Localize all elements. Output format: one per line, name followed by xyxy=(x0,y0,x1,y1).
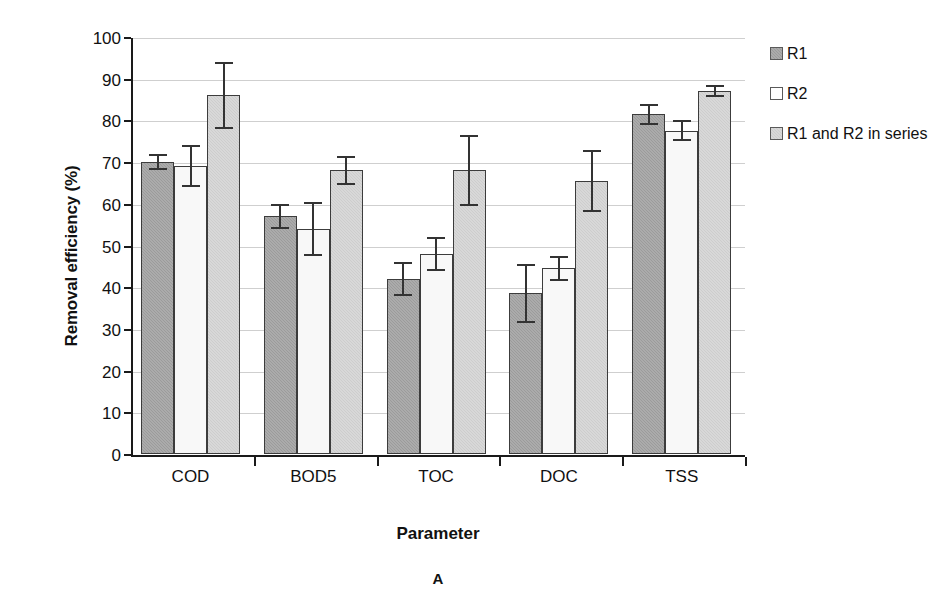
plot-area: 0102030405060708090100 xyxy=(131,38,745,455)
error-bar-cap-bottom xyxy=(215,127,233,129)
bar xyxy=(575,181,608,454)
error-bar-cap-bottom xyxy=(673,139,691,141)
y-axis-title: Removal efficiency (%) xyxy=(62,76,82,436)
bar xyxy=(542,268,575,454)
bar-group xyxy=(377,37,500,454)
x-tick-label: COD xyxy=(172,467,210,487)
y-tick-mark xyxy=(124,204,131,206)
error-bar-cap-top xyxy=(550,256,568,258)
error-bar-cap-bottom xyxy=(182,185,200,187)
bar xyxy=(141,162,174,454)
error-bar-stem xyxy=(591,150,593,213)
bar xyxy=(297,229,330,454)
x-tick-mark xyxy=(622,457,624,466)
bar xyxy=(174,166,207,454)
error-bar-cap-bottom xyxy=(706,95,724,97)
error-bar-cap-bottom xyxy=(271,227,289,229)
bar-group xyxy=(499,37,622,454)
legend-item[interactable]: R1 xyxy=(770,44,945,63)
bar xyxy=(264,216,297,454)
y-tick-mark xyxy=(124,371,131,373)
error-bar-cap-top xyxy=(271,204,289,206)
error-bar-stem xyxy=(558,256,560,281)
y-tick-mark xyxy=(124,329,131,331)
error-bar-stem xyxy=(435,237,437,270)
bar-group xyxy=(254,37,377,454)
y-tick-label: 60 xyxy=(102,196,121,213)
y-tick-mark xyxy=(124,454,131,456)
legend-swatch-icon xyxy=(770,87,783,100)
error-bar-stem xyxy=(402,262,404,295)
x-tick-label: TSS xyxy=(665,467,698,487)
x-tick-label: DOC xyxy=(540,467,578,487)
x-tick-label: BOD5 xyxy=(290,467,336,487)
y-tick-mark xyxy=(124,412,131,414)
legend-swatch-icon xyxy=(770,127,783,140)
error-bar-cap-top xyxy=(427,237,445,239)
legend-item[interactable]: R2 xyxy=(770,84,945,103)
panel-label: A xyxy=(131,570,745,587)
error-bar-cap-top xyxy=(337,156,355,158)
bar xyxy=(698,91,731,454)
bar xyxy=(207,95,240,454)
y-tick-label: 30 xyxy=(102,321,121,338)
error-bar-stem xyxy=(312,202,314,256)
x-tick-label: TOC xyxy=(418,467,454,487)
error-bar-cap-top xyxy=(182,145,200,147)
bar-group xyxy=(622,37,745,454)
x-tick-mark xyxy=(499,457,501,466)
error-bar-cap-top xyxy=(394,262,412,264)
error-bar-cap-bottom xyxy=(517,321,535,323)
error-bar-stem xyxy=(681,120,683,141)
y-tick-label: 50 xyxy=(102,238,121,255)
x-tick-mark xyxy=(377,457,379,466)
y-tick-label: 80 xyxy=(102,113,121,130)
error-bar-stem xyxy=(648,104,650,125)
legend-label: R1 xyxy=(787,44,807,63)
y-tick-label: 20 xyxy=(102,363,121,380)
y-tick-label: 40 xyxy=(102,280,121,297)
error-bar-stem xyxy=(525,264,527,322)
y-tick-mark xyxy=(124,79,131,81)
legend-swatch-icon xyxy=(770,47,783,60)
error-bar-stem xyxy=(279,204,281,229)
error-bar-cap-bottom xyxy=(550,279,568,281)
error-bar-cap-bottom xyxy=(337,183,355,185)
chart-figure: Removal efficiency (%) 01020304050607080… xyxy=(0,0,948,602)
error-bar-stem xyxy=(223,62,225,129)
error-bar-cap-bottom xyxy=(460,204,478,206)
error-bar-cap-top xyxy=(304,202,322,204)
legend-item[interactable]: R1 and R2 in series xyxy=(770,124,945,143)
y-tick-mark xyxy=(124,287,131,289)
error-bar-stem xyxy=(190,145,192,187)
x-axis-line xyxy=(131,455,745,457)
error-bar-cap-top xyxy=(215,62,233,64)
bar xyxy=(632,114,665,454)
y-tick-mark xyxy=(124,120,131,122)
x-axis-title: Parameter xyxy=(131,524,745,544)
y-tick-label: 70 xyxy=(102,155,121,172)
error-bar-cap-top xyxy=(460,135,478,137)
bar-group xyxy=(131,37,254,454)
y-tick-mark xyxy=(124,37,131,39)
y-tick-mark xyxy=(124,162,131,164)
x-tick-mark xyxy=(745,457,747,466)
error-bar-cap-top xyxy=(640,104,658,106)
error-bar-cap-top xyxy=(583,150,601,152)
error-bar-cap-bottom xyxy=(583,210,601,212)
error-bar-cap-bottom xyxy=(304,254,322,256)
bar xyxy=(453,170,486,454)
y-tick-label: 100 xyxy=(93,30,121,47)
error-bar-cap-bottom xyxy=(149,168,167,170)
y-tick-label: 90 xyxy=(102,71,121,88)
legend-label: R1 and R2 in series xyxy=(787,124,928,143)
error-bar-cap-top xyxy=(673,120,691,122)
error-bar-cap-top xyxy=(517,264,535,266)
error-bar-stem xyxy=(468,135,470,206)
x-tick-mark xyxy=(254,457,256,466)
bar xyxy=(387,279,420,454)
y-tick-label: 10 xyxy=(102,405,121,422)
error-bar-cap-bottom xyxy=(640,123,658,125)
error-bar-cap-top xyxy=(706,85,724,87)
error-bar-cap-bottom xyxy=(394,294,412,296)
